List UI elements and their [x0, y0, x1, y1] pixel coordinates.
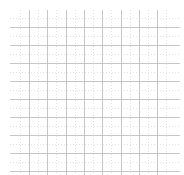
major-gridline-vertical	[102, 10, 103, 175]
major-gridline-horizontal	[10, 81, 180, 82]
minor-gridline-vertical	[20, 10, 21, 175]
major-gridlines-layer	[0, 0, 184, 175]
minor-gridline-vertical	[75, 10, 76, 175]
major-gridline-vertical	[84, 10, 85, 175]
major-gridline-horizontal	[10, 99, 180, 100]
major-gridline-horizontal	[10, 63, 180, 64]
major-gridline-horizontal	[10, 171, 180, 172]
major-gridline-vertical	[66, 10, 67, 175]
major-gridline-horizontal	[10, 135, 180, 136]
minor-gridline-horizontal	[10, 72, 180, 73]
minor-gridline-vertical	[38, 10, 39, 175]
minor-gridline-horizontal	[10, 90, 180, 91]
minor-gridline-vertical	[148, 10, 149, 175]
major-gridline-vertical	[139, 10, 140, 175]
minor-gridline-vertical	[166, 10, 167, 175]
major-gridline-horizontal	[10, 27, 180, 28]
minor-gridline-vertical	[130, 10, 131, 175]
minor-gridline-horizontal	[10, 144, 180, 145]
major-gridline-vertical	[157, 10, 158, 175]
minor-gridline-horizontal	[10, 126, 180, 127]
minor-gridline-vertical	[93, 10, 94, 175]
major-gridline-vertical	[47, 10, 48, 175]
major-gridline-horizontal	[10, 153, 180, 154]
minor-gridlines-layer	[0, 0, 184, 175]
major-gridline-vertical	[121, 10, 122, 175]
minor-gridline-horizontal	[10, 108, 180, 109]
minor-gridline-horizontal	[10, 54, 180, 55]
major-gridline-horizontal	[10, 117, 180, 118]
minor-gridline-horizontal	[10, 36, 180, 37]
minor-gridline-vertical	[56, 10, 57, 175]
minor-gridline-horizontal	[10, 162, 180, 163]
minor-gridline-vertical	[111, 10, 112, 175]
major-gridline-vertical	[29, 10, 30, 175]
major-gridline-horizontal	[10, 45, 180, 46]
minor-gridline-horizontal	[10, 18, 180, 19]
grid-canvas	[0, 0, 184, 175]
